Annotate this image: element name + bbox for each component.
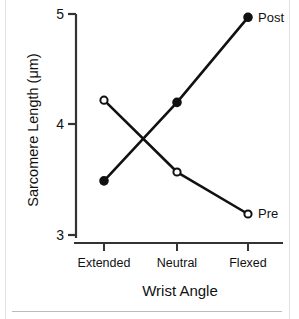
series-label-pre: Pre (258, 206, 278, 221)
line-chart-plot (0, 0, 299, 319)
y-tick-label-4: 4 (40, 117, 64, 131)
data-point-post-flexed (244, 13, 252, 21)
data-point-post-neutral (173, 98, 181, 106)
data-point-pre-flexed (244, 210, 251, 217)
data-point-pre-extended (100, 97, 107, 104)
x-tick-label-flexed: Flexed (203, 257, 293, 270)
y-axis-title: Sarcomere Length (μm) (25, 15, 41, 245)
data-point-pre-neutral (173, 168, 180, 175)
figure-container: 5 4 3 Extended Neutral Flexed Sarcomere … (0, 0, 299, 319)
series-label-post: Post (258, 10, 284, 25)
series-layer (100, 13, 252, 217)
x-axis-title: Wrist Angle (60, 282, 299, 299)
y-tick-label-3: 3 (40, 228, 64, 242)
data-point-post-extended (100, 177, 108, 185)
y-tick-label-5: 5 (40, 7, 64, 21)
